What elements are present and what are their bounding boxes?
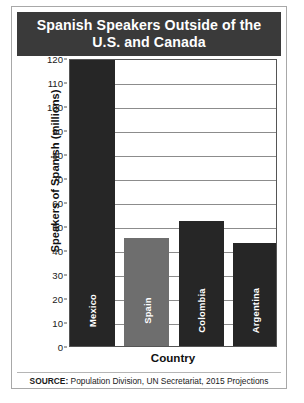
chart-title-banner: Spanish Speakers Outside of the U.S. and… [17, 12, 281, 56]
y-tick-mark [64, 347, 67, 348]
y-tick-mark [64, 131, 67, 132]
y-tick-label: 20 [52, 294, 63, 305]
y-tick-label: 100 [47, 102, 63, 113]
plot-area-wrapper: Speakers of Spanish (millions) 010203040… [17, 59, 281, 359]
source-divider [17, 372, 281, 373]
y-axis-ticks: 0102030405060708090100110120 [37, 59, 67, 347]
source-text: Population Division, UN Secretariat, 201… [68, 376, 268, 386]
source-label: SOURCE: [30, 376, 69, 386]
y-tick-label: 30 [52, 270, 63, 281]
x-axis-label: Country [69, 351, 277, 364]
y-tick-label: 60 [52, 198, 63, 209]
y-tick-mark [64, 83, 67, 84]
bar-argentina: Argentina [233, 243, 277, 346]
bar-label: Spain [141, 297, 152, 324]
y-tick-mark [64, 155, 67, 156]
bar-spain: Spain [124, 238, 169, 346]
y-tick-mark [64, 275, 67, 276]
bar-colombia: Colombia [179, 221, 224, 346]
y-tick-mark [64, 323, 67, 324]
y-tick-mark [64, 59, 67, 60]
plot-area: MexicoSpainColombiaArgentina [69, 59, 277, 347]
bar-mexico: Mexico [70, 60, 115, 346]
chart-figure: Spanish Speakers Outside of the U.S. and… [11, 6, 287, 389]
y-tick-mark [64, 227, 67, 228]
y-tick-label: 50 [52, 222, 63, 233]
y-tick-label: 40 [52, 246, 63, 257]
y-tick-label: 10 [52, 318, 63, 329]
bar-label: Mexico [87, 294, 98, 327]
bar-series: MexicoSpainColombiaArgentina [70, 60, 276, 346]
y-tick-mark [64, 299, 67, 300]
y-tick-label: 90 [52, 126, 63, 137]
y-tick-mark [64, 203, 67, 204]
y-tick-mark [64, 107, 67, 108]
y-tick-label: 0 [58, 342, 63, 353]
y-tick-mark [64, 251, 67, 252]
source-note: SOURCE: Population Division, UN Secretar… [17, 376, 281, 386]
bar-label: Argentina [250, 288, 261, 334]
y-tick-label: 110 [48, 78, 63, 89]
y-tick-mark [64, 179, 67, 180]
page-title: Spanish Speakers Outside of the U.S. and… [17, 17, 281, 51]
y-tick-label: 120 [47, 54, 63, 65]
y-tick-label: 80 [52, 150, 63, 161]
bar-label: Colombia [196, 288, 207, 332]
y-tick-label: 70 [52, 174, 63, 185]
